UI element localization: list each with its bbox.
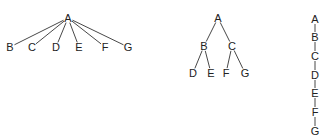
node-d: D [311,69,319,81]
node-b: B [200,40,207,52]
node-c: C [228,40,236,52]
flat-tree-nodes: ABCDEFG [6,12,132,53]
edge-c-f [227,51,231,68]
edge-a-b [206,22,216,41]
chain-diagram: ABCDEFG [311,13,320,137]
node-g: G [241,67,250,79]
node-e: E [207,67,214,79]
node-e: E [75,41,82,53]
node-a: A [214,12,222,24]
node-a: A [64,12,72,24]
node-f: F [223,67,230,79]
binary-tree-diagram: ABCDEFG [189,12,249,79]
edge-b-d [195,51,202,69]
node-a: A [311,13,319,25]
node-g: G [311,125,320,137]
node-g: G [124,41,133,53]
binary-tree-nodes: ABCDEFG [189,12,249,79]
node-f: F [102,41,109,53]
node-f: F [312,106,319,118]
node-e: E [311,87,318,99]
edge-a-e [70,23,77,43]
node-b: B [6,41,13,53]
node-c: C [28,41,36,53]
edge-a-c [220,22,230,41]
tree-diagrams-canvas: ABCDEFG ABCDEFG ABCDEFG [0,0,328,139]
flat-tree-diagram: ABCDEFG [6,12,132,53]
edge-c-g [234,51,243,69]
node-b: B [311,31,318,43]
node-d: D [52,41,60,53]
edge-b-e [205,51,209,68]
node-c: C [311,50,319,62]
node-d: D [189,67,197,79]
